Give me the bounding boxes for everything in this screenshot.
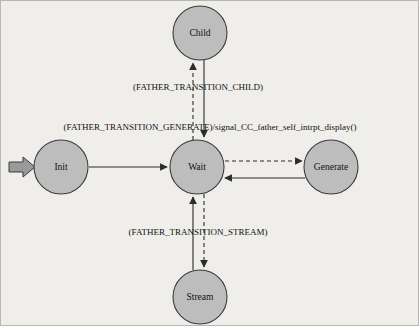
state-label-stream: Stream bbox=[187, 292, 215, 302]
state-label-child: Child bbox=[189, 28, 210, 38]
state-label-generate: Generate bbox=[314, 162, 348, 172]
state-label-init: Init bbox=[54, 162, 68, 172]
edge-label-child: (FATHER_TRANSITION_CHILD) bbox=[133, 82, 263, 92]
state-node-stream[interactable]: Stream bbox=[173, 270, 227, 324]
edge-label-generate: (FATHER_TRANSITION_GENERATE)/signal_CC_f… bbox=[64, 122, 357, 132]
state-node-wait[interactable]: Wait bbox=[170, 140, 224, 194]
edge-label-generate-text: (FATHER_TRANSITION_GENERATE)/signal_CC_f… bbox=[64, 122, 357, 132]
start-marker-arrow bbox=[9, 157, 35, 177]
state-diagram: Child Init Wait Generate Stream (FATHER_… bbox=[1, 1, 419, 326]
state-diagram-canvas: Child Init Wait Generate Stream (FATHER_… bbox=[0, 0, 419, 326]
state-node-generate[interactable]: Generate bbox=[304, 140, 358, 194]
state-node-init[interactable]: Init bbox=[34, 140, 88, 194]
edge-label-stream-text: (FATHER_TRANSITION_STREAM) bbox=[129, 227, 268, 237]
edge-label-child-text: (FATHER_TRANSITION_CHILD) bbox=[133, 82, 263, 92]
state-label-wait: Wait bbox=[188, 162, 206, 172]
edge-label-stream: (FATHER_TRANSITION_STREAM) bbox=[129, 227, 268, 237]
state-node-child[interactable]: Child bbox=[173, 6, 227, 60]
